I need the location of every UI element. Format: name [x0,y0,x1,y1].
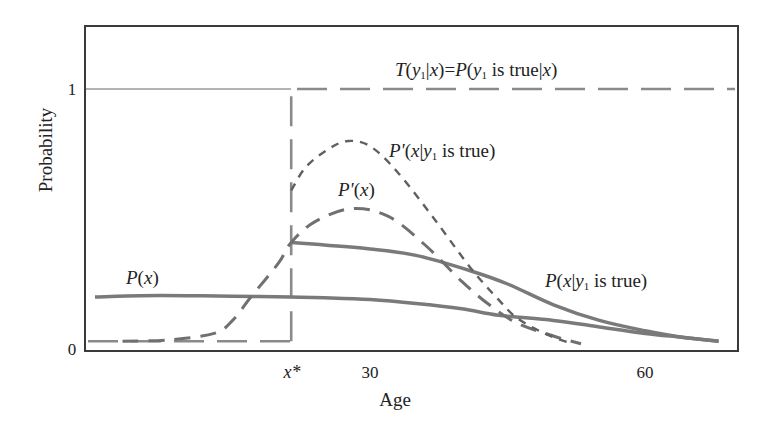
p-conditional-curve [291,242,718,341]
probability-age-chart: 1 0 Probability x* 30 60 Age T(y1|x)=P(y… [0,0,773,431]
p-label: P(x) [125,267,159,289]
p-close: ) [152,267,158,289]
p-conditional-label: P(x|y1 is true) [544,270,647,292]
t-label-y2: y [471,59,482,80]
y-tick-1: 1 [68,80,77,99]
pp-close: ) [368,179,374,201]
p-prime-conditional-curve [291,141,572,344]
pc-P: P [544,270,557,291]
t-label-eq: )= [438,59,455,81]
pc-y: y [573,270,584,291]
p-prime-curve [123,208,581,343]
ppc-is-true: is true [437,140,489,161]
ppc-close: ) [489,140,495,162]
pc-close: ) [641,270,647,292]
t-label-is-true: is true| [487,59,543,80]
x-tick-60: 60 [637,363,654,382]
x-axis-label: Age [379,389,411,410]
x-tick-30: 30 [362,363,379,382]
ppc-y: y [421,140,432,161]
t-label-P: P [454,59,467,80]
p-prime-conditional-label: P'(x|y1 is true) [388,140,495,162]
x-tick-x-star: x* [283,362,301,382]
p-prime-label: P'(x) [337,179,375,201]
y-axis-label: Probability [35,107,56,192]
ppc-P: P' [388,140,406,161]
pp-P: P' [337,179,355,200]
series-layer [88,89,735,344]
t-function-label: T(y1|x)=P(y1 is true|x) [395,59,557,81]
t-label-y: y [410,59,421,80]
pc-is-true: is true [589,270,641,291]
p-x-curve [95,296,719,342]
y-tick-0: 0 [68,340,77,359]
p-P: P [125,267,138,288]
t-label-close: ) [551,59,557,81]
